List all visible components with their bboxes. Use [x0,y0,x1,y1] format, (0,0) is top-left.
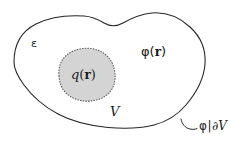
boundary-surface-symbol: V [218,119,227,133]
charge-density-close-paren: ) [91,67,96,82]
outer-potential-symbol: φ [141,44,150,59]
physics-diagram-figure: ε φ(r) q(r) V φ|∂V [0,0,233,144]
boundary-potential-symbol: φ [199,119,207,133]
boundary-condition-label: φ|∂V [199,120,227,132]
outer-potential-close-paren: ) [161,44,166,59]
volume-label: V [110,105,119,118]
boundary-leader-line [181,119,197,129]
charge-density-label: q(r) [71,68,96,81]
permittivity-label: ε [31,38,37,49]
outer-potential-label: φ(r) [141,45,166,58]
